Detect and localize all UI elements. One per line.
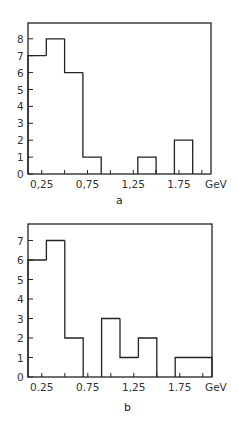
y-tick-label: 7 [17,235,24,247]
x-unit-label-b: GeV [205,381,228,393]
x-tick-label: 1,25 [122,381,145,393]
plot-frame-a [28,23,211,174]
y-tick-label: 5 [17,274,24,286]
x-tick-label: 1,25 [122,178,145,190]
x-axis-a: 0,250,751,251.75 [30,170,202,190]
x-unit-label-a: GeV [205,178,228,190]
y-tick-label: 3 [17,313,24,325]
x-axis-b: 0.250.751,251.75 [30,373,203,393]
y-tick-label: 6 [17,67,24,79]
y-axis-b: 01234567 [17,235,33,384]
y-tick-label: 2 [17,134,24,146]
y-tick-label: 1 [17,151,24,163]
panel-caption-a: a [116,194,123,207]
x-tick-label: 0.75 [76,381,99,393]
y-tick-label: 1 [17,352,24,364]
histogram-steps-b [28,241,212,378]
x-tick-label: 1.75 [167,178,190,190]
y-tick-label: 2 [17,332,24,344]
y-tick-label: 5 [17,84,24,96]
histogram-steps-a [28,39,193,174]
y-tick-label: 8 [17,33,24,45]
x-tick-label: 1.75 [168,381,191,393]
panel-caption-b: b [124,401,131,414]
x-tick-label: 0.25 [30,381,53,393]
y-tick-label: 7 [17,50,24,62]
y-tick-label: 4 [17,293,24,305]
y-axis-a: 012345678 [17,33,33,180]
x-tick-label: 0,75 [76,178,99,190]
x-tick-label: 0,25 [30,178,53,190]
y-tick-label: 6 [17,254,24,266]
histogram-panel-a: 012345678 0,250,751,251.75 GeV a [17,23,228,207]
y-tick-label: 3 [17,117,24,129]
y-tick-label: 0 [17,168,24,180]
histogram-panel-b: 01234567 0.250.751,251.75 GeV b [17,224,228,414]
histogram-figure: 012345678 0,250,751,251.75 GeV a 0123456… [0,0,238,421]
y-tick-label: 4 [17,100,24,112]
y-tick-label: 0 [17,371,24,383]
